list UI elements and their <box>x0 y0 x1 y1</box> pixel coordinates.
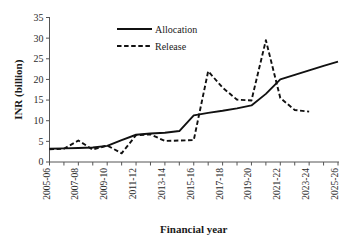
x-axis-tick-label: 2007-08 <box>70 168 80 200</box>
y-axis-tick-label: 10 <box>34 115 44 126</box>
y-axis-tick-label: 15 <box>34 94 44 105</box>
x-axis-tick-label: 2019-20 <box>243 168 253 200</box>
x-axis-tick-label: 2009-10 <box>99 168 109 200</box>
legend-label-allocation: Allocation <box>155 24 197 35</box>
data-series-layer <box>50 40 339 153</box>
x-axis-title: Financial year <box>160 223 228 235</box>
x-axis-tick-label: 2011-12 <box>128 168 138 200</box>
x-axis-tick-label: 2013-14 <box>157 168 167 200</box>
y-axis-tick-label: 35 <box>34 12 44 23</box>
y-axis-tick-label: 20 <box>34 74 44 85</box>
x-axis-tick-label: 2021-22 <box>272 168 282 200</box>
legend-label-release: Release <box>155 41 187 52</box>
y-axis-tick-label: 30 <box>34 33 44 44</box>
y-axis-tick-label: 0 <box>39 156 44 167</box>
x-axis-tick-label: 2017-18 <box>215 168 225 200</box>
x-axis-tick-label: 2005-06 <box>42 168 52 200</box>
line-chart: 051015202530352005-062007-082009-102011-… <box>0 0 346 242</box>
axis-titles: Financial yearINR (billion) <box>12 59 228 235</box>
y-axis-tick-label: 5 <box>39 136 44 147</box>
chart-container: 051015202530352005-062007-082009-102011-… <box>0 0 346 242</box>
series-line-release <box>50 40 310 153</box>
axes: 051015202530352005-062007-082009-102011-… <box>34 12 341 200</box>
x-axis-tick-label: 2015-16 <box>186 168 196 200</box>
x-axis-tick-label: 2025-26 <box>330 168 340 200</box>
y-axis-tick-label: 25 <box>34 53 44 64</box>
x-axis-tick-label: 2023-24 <box>301 168 311 200</box>
chart-legend: AllocationRelease <box>117 24 197 52</box>
y-axis-title: INR (billion) <box>12 59 25 120</box>
